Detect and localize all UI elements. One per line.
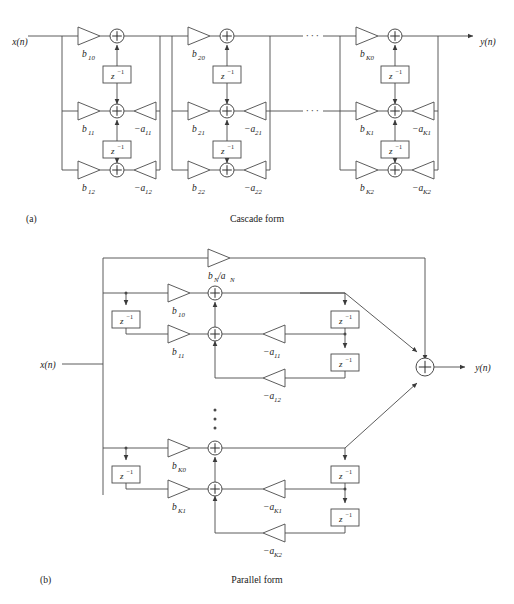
amp-neg-a12 [134, 161, 156, 179]
amp-b20 [188, 27, 210, 45]
delay-s1-d2-label: z [110, 146, 115, 156]
amp-b20-sub: 20 [198, 54, 205, 61]
amp-bN-aN-label-base: b [208, 271, 213, 281]
amp-b20-label: b [192, 49, 197, 59]
figure-root: x(n) b 10 z −1 [0, 0, 514, 604]
cascade-ellipsis-row1: ··· [305, 29, 320, 41]
amp-p-bK1 [168, 480, 190, 498]
cascade-section-K: b K0 z −1 b K1 −a K1 z −1 [340, 27, 438, 195]
amp-bK1 [356, 102, 378, 120]
amp-bK0-label: b [360, 49, 365, 59]
amp-bK0 [356, 27, 378, 45]
cascade-input-label: x(n) [11, 37, 27, 48]
amp-bK1-sub: K1 [365, 129, 374, 136]
amp-b21-label: b [192, 124, 197, 134]
amp-neg-a22-sub: 22 [255, 188, 262, 195]
amp-b10 [78, 27, 100, 45]
delay-p1-left-exp: −1 [127, 313, 134, 320]
amp-p-neg-a11 [263, 325, 285, 343]
amp-bN-aN-label-sub2: N [229, 276, 235, 283]
amp-neg-aK2-sub: K2 [422, 188, 432, 195]
amp-neg-aK2-label: −a [412, 183, 423, 193]
amp-neg-a21-sub: 21 [255, 129, 262, 136]
amp-neg-aK1 [412, 102, 434, 120]
amp-bK2-sub: K2 [365, 188, 375, 195]
amp-b12-label: b [82, 183, 87, 193]
amp-p-neg-aK1-sub: K1 [273, 507, 282, 514]
delay-sK-d2-label: z [388, 146, 393, 156]
delay-s2-d1-label: z [220, 71, 225, 81]
amp-b21-sub: 21 [198, 129, 205, 136]
amp-b11-label: b [82, 124, 87, 134]
amp-p-neg-aK1 [263, 480, 285, 498]
delay-p1-right-1-label: z [338, 316, 343, 326]
amp-p-neg-aK1-label: −a [263, 502, 274, 512]
parallel-ellipsis-group [214, 409, 217, 430]
cascade-ellipsis-row2: ··· [305, 104, 320, 116]
amp-b10-label: b [82, 49, 87, 59]
amp-p-bK0-sub: K0 [177, 466, 187, 473]
cascade-section-1: b 10 z −1 b 11 [62, 27, 160, 195]
delay-p1-left-label: z [119, 316, 124, 326]
amp-neg-a21 [244, 102, 266, 120]
amp-bK1-label: b [360, 124, 365, 134]
amp-p-neg-aK2 [263, 524, 285, 542]
amp-b11-sub: 11 [88, 129, 94, 136]
amp-p-neg-a12-label: −a [263, 391, 274, 401]
amp-neg-a11-sub: 11 [145, 129, 151, 136]
signal-flow-diagram: x(n) b 10 z −1 [0, 0, 514, 604]
amp-p-neg-a11-label: −a [263, 347, 274, 357]
amp-bN-over-aN [208, 249, 230, 267]
amp-bK0-sub: K0 [365, 54, 375, 61]
amp-neg-a11-label: −a [134, 124, 145, 134]
amp-neg-a21-label: −a [244, 124, 255, 134]
amp-p-neg-a12 [263, 369, 285, 387]
amp-p-b10-label: b [172, 306, 177, 316]
panel-parallel: x(n) b N /a N b 10 [39, 249, 490, 586]
amp-p-b11-label: b [172, 347, 177, 357]
amp-p-b11-sub: 11 [178, 352, 184, 359]
amp-bN-aN-label-base2: /a [217, 271, 226, 281]
amp-p-neg-a11-sub: 11 [274, 352, 280, 359]
delay-s2-d2-exp: −1 [228, 143, 235, 150]
delay-s1-d1-label: z [110, 71, 115, 81]
delay-sK-d1-label: z [388, 71, 393, 81]
delay-pK-right-1-exp: −1 [346, 468, 353, 475]
amp-neg-aK1-label: −a [412, 124, 423, 134]
cascade-ellipsis-group: ··· ··· [270, 29, 340, 116]
amp-p-bK0 [168, 439, 190, 457]
delay-s2-d1-exp: −1 [228, 68, 235, 75]
panel-b-tag: (b) [40, 575, 51, 586]
panel-cascade: x(n) b 10 z −1 [11, 27, 495, 225]
amp-p-neg-a12-sub: 12 [274, 396, 281, 403]
parallel-output-label: y(n) [474, 363, 490, 374]
amp-neg-a12-sub: 12 [145, 188, 152, 195]
amp-b21 [188, 102, 210, 120]
amp-p-neg-aK2-label: −a [263, 546, 274, 556]
parallel-direct-path: b N /a N [103, 249, 425, 360]
amp-neg-a12-label: −a [134, 183, 145, 193]
amp-p-b10-sub: 10 [178, 311, 185, 318]
delay-p1-right-2-label: z [338, 359, 343, 369]
delay-pK-left-exp: −1 [127, 468, 134, 475]
amp-p-bK1-sub: K1 [177, 507, 186, 514]
delay-p1-right-2-exp: −1 [346, 356, 353, 363]
cascade-output-label: y(n) [479, 37, 495, 48]
amp-neg-aK1-sub: K1 [422, 129, 431, 136]
amp-bK2-label: b [360, 183, 365, 193]
amp-neg-a22-label: −a [244, 183, 255, 193]
amp-p-bK0-label: b [172, 461, 177, 471]
delay-pK-right-1-label: z [338, 471, 343, 481]
amp-b12 [78, 161, 100, 179]
amp-b22-sub: 22 [198, 188, 205, 195]
amp-p-neg-aK2-sub: K2 [273, 551, 283, 558]
delay-p1-right-1-exp: −1 [346, 313, 353, 320]
parallel-output-summer-group: y(n) [416, 358, 491, 376]
amp-b10-sub: 10 [88, 54, 95, 61]
delay-pK-left-label: z [119, 471, 124, 481]
delay-s1-d1-exp: −1 [118, 68, 125, 75]
panel-b-caption: Parallel form [231, 574, 283, 585]
delay-sK-d1-exp: −1 [396, 68, 403, 75]
amp-p-bK1-label: b [172, 502, 177, 512]
amp-b11 [78, 102, 100, 120]
